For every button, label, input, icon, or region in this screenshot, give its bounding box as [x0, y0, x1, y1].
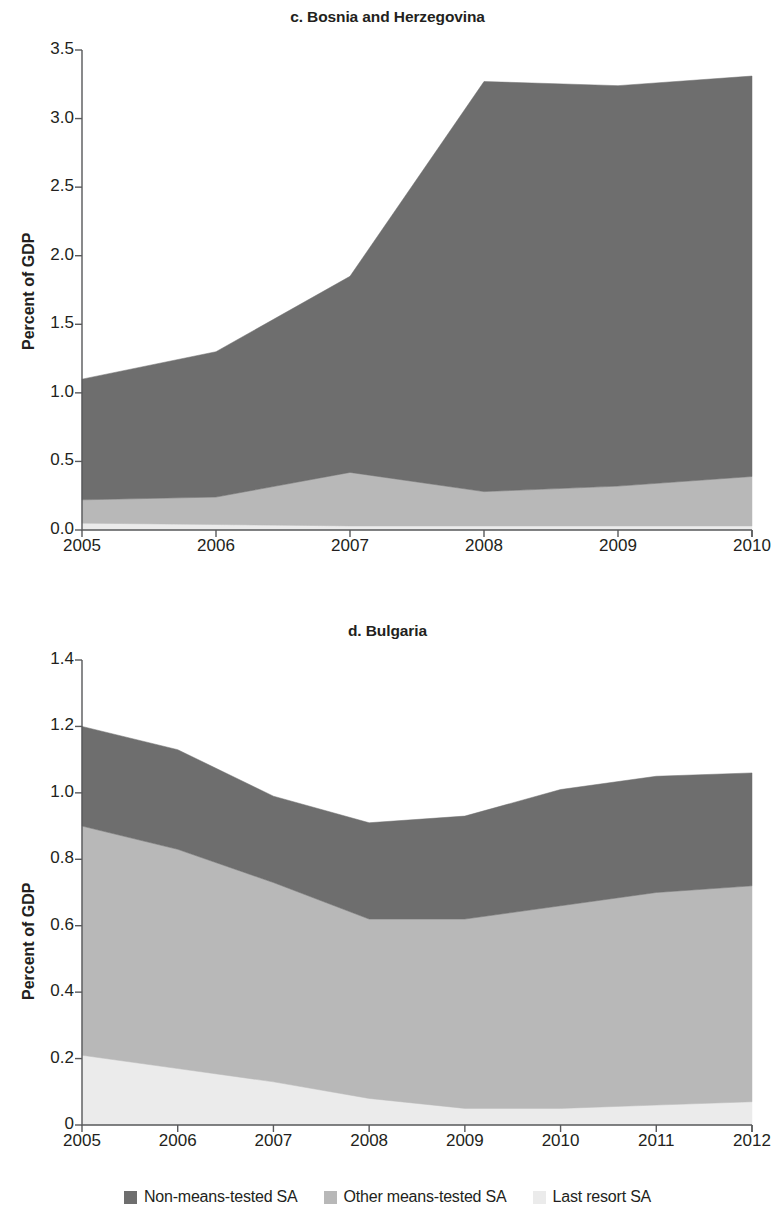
x-tick-label: 2009: [446, 1131, 484, 1151]
y-tick-label: 1.0: [50, 782, 74, 802]
x-tick-label: 2009: [599, 536, 637, 556]
plot-area-bulgaria: [82, 660, 752, 1125]
x-tick-label: 2008: [350, 1131, 388, 1151]
x-tick-label: 2010: [542, 1131, 580, 1151]
area-series-non-means-tested-sa: [82, 76, 752, 500]
legend-label: Last resort SA: [553, 1188, 652, 1206]
y-tick-label: 0.8: [50, 848, 74, 868]
y-tick-labels-bosnia: 0.00.51.01.52.02.53.03.5: [6, 50, 74, 530]
x-tick-label: 2005: [63, 1131, 101, 1151]
legend-swatch-icon: [324, 1191, 337, 1204]
x-tick-label: 2008: [465, 536, 503, 556]
x-tick-label: 2011: [638, 1131, 675, 1151]
y-tick-label: 0.4: [50, 981, 74, 1001]
legend-label: Non-means-tested SA: [144, 1188, 298, 1206]
x-tick-label: 2006: [197, 536, 235, 556]
legend-item-other-means-tested: Other means-tested SA: [324, 1188, 507, 1206]
y-tick-label: 2.0: [50, 245, 74, 265]
area-chart-bulgaria: [82, 660, 752, 1125]
y-tick-label: 0.5: [50, 450, 74, 470]
panel-title-bosnia: c. Bosnia and Herzegovina: [0, 8, 775, 26]
y-tick-label: 2.5: [50, 176, 74, 196]
x-tick-label: 2007: [331, 536, 369, 556]
y-tick-label: 3.5: [50, 39, 74, 59]
panel-title-bulgaria: d. Bulgaria: [0, 622, 775, 640]
x-tick-labels-bosnia: 200520062007200820092010: [82, 536, 752, 562]
legend-swatch-icon: [533, 1191, 546, 1204]
chart-legend: Non-means-tested SAOther means-tested SA…: [0, 1188, 775, 1206]
y-tick-label: 1.2: [50, 715, 74, 735]
plot-area-bosnia: [82, 50, 752, 530]
y-tick-label: 1.4: [50, 649, 74, 669]
y-tick-label: 0.2: [50, 1048, 74, 1068]
x-tick-label: 2010: [733, 536, 771, 556]
x-tick-label: 2007: [255, 1131, 293, 1151]
legend-label: Other means-tested SA: [344, 1188, 507, 1206]
legend-item-last-resort: Last resort SA: [533, 1188, 652, 1206]
y-tick-label: 3.0: [50, 108, 74, 128]
chart-panel-bulgaria: d. Bulgaria Percent of GDP 00.20.40.60.8…: [0, 600, 775, 1180]
x-tick-labels-bulgaria: 20052006200720082009201020112012: [82, 1131, 752, 1157]
x-tick-label: 2012: [733, 1131, 771, 1151]
area-chart-bosnia: [82, 50, 752, 530]
x-tick-label: 2006: [159, 1131, 197, 1151]
legend-item-non-means-tested: Non-means-tested SA: [124, 1188, 298, 1206]
legend-swatch-icon: [124, 1191, 137, 1204]
chart-panel-bosnia: c. Bosnia and Herzegovina Percent of GDP…: [0, 0, 775, 600]
figure-page: c. Bosnia and Herzegovina Percent of GDP…: [0, 0, 775, 1226]
y-tick-label: 0.6: [50, 915, 74, 935]
y-tick-labels-bulgaria: 00.20.40.60.81.01.21.4: [6, 660, 74, 1125]
x-tick-label: 2005: [63, 536, 101, 556]
y-tick-label: 1.0: [50, 382, 74, 402]
y-tick-label: 1.5: [50, 313, 74, 333]
